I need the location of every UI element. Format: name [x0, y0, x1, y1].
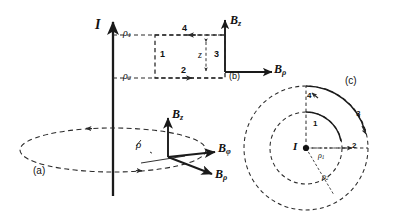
vector-Bphi-label: Bφ — [218, 142, 231, 156]
axis-Bz-label: Bz — [230, 14, 241, 28]
arc-side-4-label: 4 — [307, 92, 311, 100]
rho2-label-c: ρ2 — [322, 173, 329, 182]
loop-side-4-label: 4 — [182, 24, 187, 33]
current-out-of-page-dot — [303, 145, 309, 151]
panel-c-current-label: I — [293, 141, 297, 152]
vector-Brho-label: Bρ — [215, 168, 227, 182]
panel-c-circles — [244, 86, 368, 210]
loop-side-3-label: 3 — [214, 50, 219, 59]
rho-label: ρ — [136, 139, 141, 150]
arc-side1 — [306, 112, 341, 141]
rho1-label-b: ρ1 — [123, 28, 131, 39]
arc-side-3-label: 3 — [356, 110, 360, 118]
vector-Bphi — [168, 152, 215, 157]
axis-Brho-label: Bρ — [274, 63, 286, 77]
field-vector-triad — [168, 118, 215, 174]
arc-side-1-label: 1 — [313, 120, 317, 128]
rho-leader — [136, 140, 185, 163]
vector-Bz-label: Bz — [172, 108, 183, 122]
panel-b-tag: (b) — [229, 72, 240, 81]
loop-side-2-label: 2 — [181, 66, 186, 75]
panel-a-tag: (a) — [33, 166, 45, 176]
rho-tick — [150, 152, 152, 153]
figure-canvas: I (a) ρ Bz Bφ Bρ Bz Bρ ρ1 ρ2 z 1 2 3 4 (… — [0, 0, 397, 211]
loop-side-1-label: 1 — [160, 50, 165, 59]
panel-c-tag: (c) — [345, 76, 357, 86]
figure-vector-layer — [0, 0, 397, 211]
arrow-side4 — [312, 93, 318, 98]
vector-Brho — [168, 157, 212, 174]
rho1-label-c: ρ1 — [318, 152, 325, 161]
current-label: I — [95, 18, 100, 32]
rho2-label-b: ρ2 — [123, 71, 131, 82]
arc-side-2-label: 2 — [352, 142, 356, 150]
z-height-label: z — [198, 50, 202, 60]
